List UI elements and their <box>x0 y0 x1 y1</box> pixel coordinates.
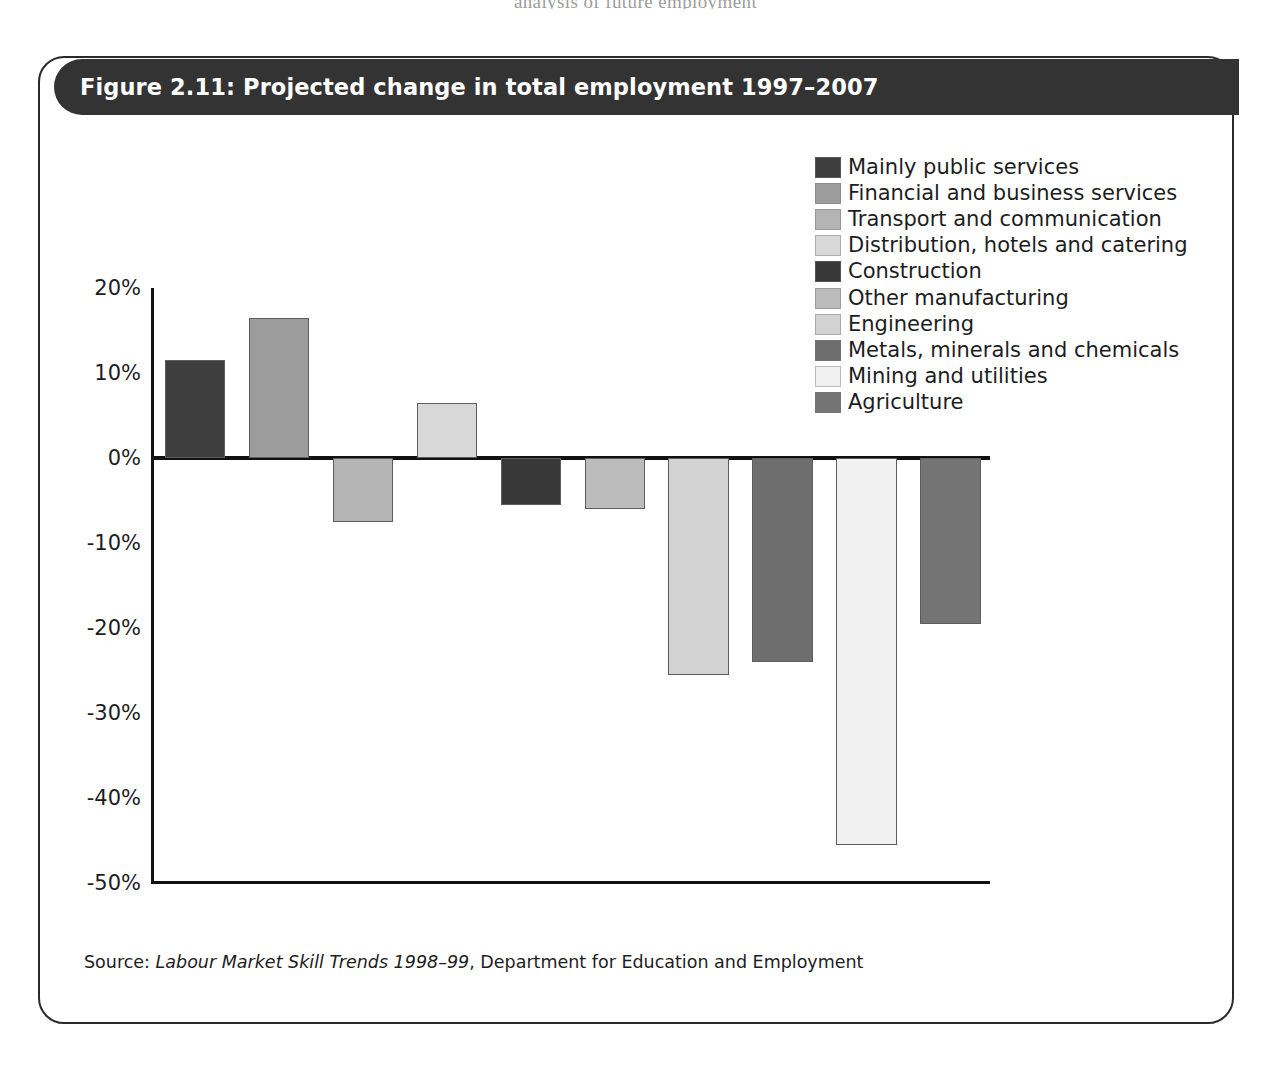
legend-swatch-icon <box>815 340 841 361</box>
legend-swatch-icon <box>815 157 841 178</box>
legend-item-mining-and-utilities: Mining and utilities <box>815 364 1195 390</box>
legend-label: Financial and business services <box>848 183 1177 204</box>
source-suffix: , Department for Education and Employmen… <box>469 952 863 972</box>
figure-title: Figure 2.11: Projected change in total e… <box>80 74 878 100</box>
legend-swatch-icon <box>815 235 841 256</box>
legend-swatch-icon <box>815 288 841 309</box>
legend-item-transport-and-communication: Transport and communication <box>815 206 1195 232</box>
legend-label: Metals, minerals and chemicals <box>848 340 1179 361</box>
legend-item-other-manufacturing: Other manufacturing <box>815 285 1195 311</box>
chart-legend: Mainly public servicesFinancial and busi… <box>815 154 1195 416</box>
legend-swatch-icon <box>815 392 841 413</box>
page-bleed-text: analysis of future employment <box>0 0 1271 9</box>
legend-swatch-icon <box>815 183 841 204</box>
legend-swatch-icon <box>815 366 841 387</box>
legend-swatch-icon <box>815 209 841 230</box>
figure-title-bar: Figure 2.11: Projected change in total e… <box>54 59 1239 115</box>
legend-item-construction: Construction <box>815 259 1195 285</box>
legend-swatch-icon <box>815 261 841 282</box>
source-note: Source: Labour Market Skill Trends 1998–… <box>84 952 863 972</box>
legend-label: Transport and communication <box>848 209 1162 230</box>
legend-label: Mainly public services <box>848 157 1079 178</box>
source-prefix: Source: <box>84 952 156 972</box>
legend-label: Engineering <box>848 314 974 335</box>
legend-item-agriculture: Agriculture <box>815 390 1195 416</box>
legend-label: Construction <box>848 261 982 282</box>
legend-label: Distribution, hotels and catering <box>848 235 1188 256</box>
source-publication-title: Labour Market Skill Trends 1998–99 <box>156 952 470 972</box>
legend-item-distribution-hotels-and-catering: Distribution, hotels and catering <box>815 233 1195 259</box>
legend-label: Agriculture <box>848 392 964 413</box>
legend-item-mainly-public-services: Mainly public services <box>815 154 1195 180</box>
legend-item-metals-minerals-and-chemicals: Metals, minerals and chemicals <box>815 337 1195 363</box>
legend-item-financial-and-business-services: Financial and business services <box>815 180 1195 206</box>
legend-label: Other manufacturing <box>848 288 1069 309</box>
legend-label: Mining and utilities <box>848 366 1048 387</box>
legend-item-engineering: Engineering <box>815 311 1195 337</box>
legend-swatch-icon <box>815 314 841 335</box>
